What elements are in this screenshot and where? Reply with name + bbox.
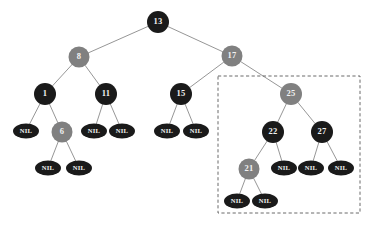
node-label: NIL [190,127,203,134]
tree-node-nil-nil15L[interactable]: NIL [154,124,180,139]
tree-node-27-n27[interactable]: 27 [311,121,333,143]
tree-node-21-n21[interactable]: 21 [239,159,260,180]
tree-node-22-n22[interactable]: 22 [262,121,284,143]
node-label: 22 [269,126,278,136]
tree-edge [66,141,76,161]
tree-node-nil-nil1L[interactable]: NIL [13,124,39,139]
tree-edge [170,104,178,124]
tree-nodes: 1381711115256222721NILNILNILNILNILNILNIL… [13,11,354,209]
tree-edge [52,64,72,86]
node-label: NIL [161,127,174,134]
tree-node-nil-nil21L[interactable]: NIL [224,194,250,209]
tree-edge [189,62,223,88]
tree-node-nil-nil15R[interactable]: NIL [183,124,209,139]
tree-edge [276,142,282,161]
node-label: 17 [228,50,237,60]
node-label: NIL [42,164,55,171]
tree-node-nil-nil6R[interactable]: NIL [66,161,92,176]
node-label: 25 [287,88,296,98]
tree-edge [85,65,100,85]
tree-node-17-n17[interactable]: 17 [222,46,243,67]
node-label: NIL [278,164,291,171]
tree-node-15-n15[interactable]: 15 [170,83,192,105]
tree-node-8-n8[interactable]: 8 [69,47,90,68]
tree-edge [49,104,58,123]
tree-edge [327,141,338,161]
tree-node-11-n11[interactable]: 11 [95,83,117,105]
node-label: NIL [305,164,318,171]
tree-edge [254,178,262,195]
tree-node-nil-nil6L[interactable]: NIL [35,161,61,176]
tree-node-nil-nil21R[interactable]: NIL [252,194,278,209]
tree-edge [313,142,319,161]
tree-edge [168,26,223,51]
tree-diagram-canvas: 1381711115256222721NILNILNILNILNILNILNIL… [0,0,371,227]
node-label: NIL [73,164,86,171]
node-label: 13 [154,16,163,26]
node-label: 6 [60,126,64,136]
tree-edge [51,141,59,161]
tree-node-nil-nil27R[interactable]: NIL [328,161,354,176]
node-label: NIL [335,164,348,171]
tree-node-6-n6[interactable]: 6 [52,122,73,143]
tree-node-nil-nil27L[interactable]: NIL [298,161,324,176]
tree-node-nil-nil11R[interactable]: NIL [109,124,135,139]
red-black-tree-svg: 1381711115256222721NILNILNILNILNILNILNIL… [0,0,371,227]
tree-edge [110,104,119,125]
tree-node-nil-nil22R[interactable]: NIL [271,161,297,176]
tree-edge [240,178,246,194]
tree-edge [254,141,267,161]
node-label: NIL [20,127,33,134]
node-label: 27 [318,126,327,136]
node-label: 21 [245,163,254,173]
node-label: 8 [77,51,81,61]
tree-node-25-n25[interactable]: 25 [280,83,302,105]
tree-edge [96,104,103,124]
tree-node-13-n13[interactable]: 13 [147,11,169,33]
node-label: 11 [102,88,110,98]
tree-edge [298,102,316,124]
node-label: NIL [116,127,129,134]
node-label: NIL [231,197,244,204]
node-label: 15 [177,88,186,98]
tree-edge [185,104,193,125]
tree-edge [278,104,287,123]
tree-node-1-n1[interactable]: 1 [34,83,56,105]
tree-edge [88,26,148,53]
node-label: NIL [88,127,101,134]
tree-edge [240,61,282,88]
node-label: 1 [43,88,47,98]
tree-node-nil-nil11L[interactable]: NIL [81,124,107,139]
node-label: NIL [259,197,272,204]
tree-edge [29,103,40,124]
